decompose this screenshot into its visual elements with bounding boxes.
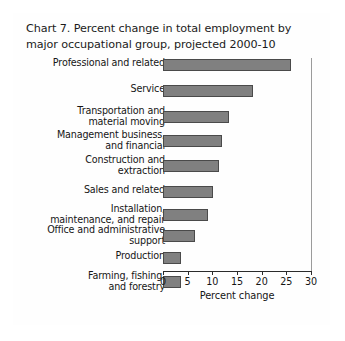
- bar-production: [163, 252, 181, 264]
- category-label: Construction and extraction: [25, 155, 165, 176]
- bar-transportation-and-material-moving: [163, 111, 229, 123]
- figure-frame: Chart 7. Percent change in total employm…: [13, 13, 330, 325]
- category-label-line: extraction: [25, 166, 165, 177]
- bar-row: Construction and extraction: [13, 159, 330, 180]
- x-axis-tick-label: 0: [151, 276, 175, 287]
- category-label-line: Transportation and: [25, 106, 165, 117]
- bar-management-business-and-financial: [163, 135, 222, 147]
- x-axis-tick-label: 15: [225, 276, 249, 287]
- x-axis-tick: [286, 271, 287, 275]
- category-label-line: Construction and: [25, 155, 165, 166]
- category-label-line: and financial: [25, 141, 165, 152]
- category-label: Professional and related: [25, 58, 165, 69]
- category-label: Management business, and financial: [25, 130, 165, 151]
- category-label: Service: [25, 84, 165, 95]
- bar-office-and-administrative-support: [163, 230, 195, 242]
- bar-row: Service: [13, 84, 330, 105]
- category-label: Sales and related: [25, 185, 165, 196]
- bar-installation-maintenance-and-repair: [163, 209, 208, 221]
- bar-row: Office and administrative support: [13, 229, 330, 250]
- category-label-line: Service: [25, 84, 165, 95]
- bar-row: Production: [13, 251, 330, 272]
- bar-row: Sales and related: [13, 185, 330, 206]
- bar-row: Professional and related: [13, 58, 330, 79]
- category-label-line: Management business,: [25, 130, 165, 141]
- plot-right-border: [311, 58, 312, 272]
- category-label-line: Farming, fishing,: [25, 271, 165, 282]
- x-axis-tick-label: 25: [274, 276, 298, 287]
- x-axis-tick: [212, 271, 213, 275]
- x-axis-tick: [311, 271, 312, 275]
- x-axis-tick-label: 20: [250, 276, 274, 287]
- x-axis-tick: [163, 271, 164, 275]
- bar-professional-and-related: [163, 59, 291, 71]
- x-axis-tick: [262, 271, 263, 275]
- category-label-line: Sales and related: [25, 185, 165, 196]
- bar-construction-and-extraction: [163, 160, 219, 172]
- category-label-line: Professional and related: [25, 58, 165, 69]
- x-axis-tick-label: 5: [176, 276, 200, 287]
- category-label: Transportation and material moving: [25, 106, 165, 127]
- x-axis-tick-label: 10: [200, 276, 224, 287]
- category-label: Installation, maintenance, and repair: [25, 204, 165, 225]
- x-axis-tick-label: 30: [299, 276, 323, 287]
- category-label: Farming, fishing, and forestry: [25, 271, 165, 292]
- x-axis-tick: [237, 271, 238, 275]
- category-label-line: and forestry: [25, 282, 165, 293]
- figure-background: Chart 7. Percent change in total employm…: [13, 13, 330, 325]
- category-label-line: Office and administrative: [25, 225, 165, 236]
- category-label: Office and administrative support: [25, 225, 165, 246]
- category-label-line: material moving: [25, 117, 165, 128]
- category-label: Production: [25, 251, 165, 262]
- bar-sales-and-related: [163, 186, 213, 198]
- bar-row: Transportation and material moving: [13, 110, 330, 131]
- x-axis-title: Percent change: [163, 290, 311, 301]
- bar-row: Management business, and financial: [13, 134, 330, 155]
- category-label-line: support: [25, 236, 165, 247]
- category-label-line: Installation,: [25, 204, 165, 215]
- plot-area: Professional and related Service Transpo…: [13, 13, 330, 325]
- bar-service: [163, 85, 253, 97]
- chart-screenshot: Chart 7. Percent change in total employm…: [0, 0, 345, 341]
- category-label-line: Production: [25, 251, 165, 262]
- x-axis-tick: [188, 271, 189, 275]
